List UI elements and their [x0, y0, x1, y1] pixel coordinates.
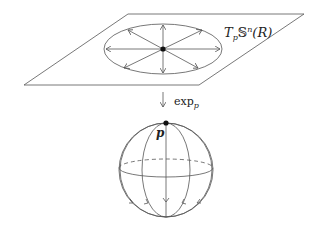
exp-map-label: expp — [174, 95, 199, 110]
tangent-plane-label: Tp𝕊n(R) — [224, 25, 272, 42]
exponential-map-diagram: Tp𝕊n(R) expp p — [0, 0, 317, 232]
origin-point — [160, 46, 165, 51]
point-p — [163, 120, 168, 125]
point-p-label: p — [156, 126, 165, 140]
meridian-arrows — [129, 198, 201, 204]
